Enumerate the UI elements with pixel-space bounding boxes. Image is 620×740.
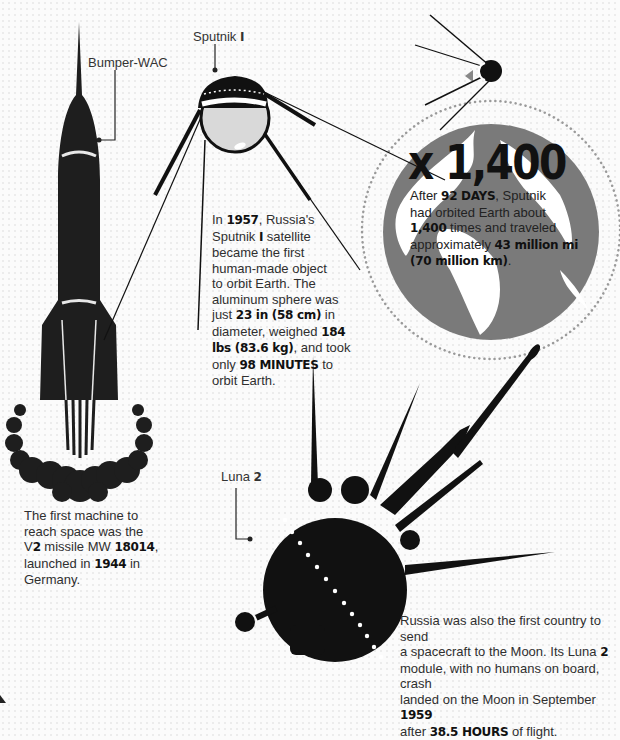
- luna-line-3: module, with no humans on board, crash: [400, 661, 620, 692]
- luna-line-1: Russia was also the first country to sen…: [400, 613, 620, 644]
- v2-line-2: reach space was the: [24, 524, 164, 540]
- luna-label-number: 2: [254, 470, 262, 484]
- luna-line-2: a spacecraft to the Moon. Its Luna 2: [400, 644, 620, 661]
- sputnik-line-4: human-made object: [212, 261, 362, 277]
- v2-line-4: launched in 1944 in: [24, 556, 164, 573]
- sputnik-line-5: to orbit Earth. The: [212, 276, 362, 292]
- sputnik-line-3: became the first: [212, 245, 362, 261]
- sputnik-line-1: In 1957, Russia's: [212, 212, 362, 229]
- luna-line-4: landed on the Moon in September 1959: [400, 692, 620, 724]
- v2-line-3: V2 missile MW 18014,: [24, 539, 164, 556]
- luna-2-label: Luna 2: [221, 469, 262, 484]
- orbit-line-1: After 92 DAYS, Sputnik: [410, 188, 610, 205]
- sputnik-line-8: diameter, weighed 184: [212, 324, 362, 341]
- bumper-wac-text: Bumper-WAC: [88, 55, 168, 70]
- sputnik-line-10: only 98 MINUTES to: [212, 357, 362, 374]
- luna-leader-line: [236, 488, 249, 539]
- sputnik-orbit-icon: [415, 15, 502, 130]
- sputnik-label-number: I: [240, 30, 244, 44]
- luna-label-text: Luna: [221, 469, 254, 484]
- bumper-wac-rocket-icon: [5, 22, 153, 502]
- luna-line-5: after 38.5 HOURS of flight.: [400, 724, 620, 740]
- v2-line-1: The first machine to: [24, 508, 164, 524]
- orbit-stat-paragraph: After 92 DAYS, Sputnik had orbited Earth…: [410, 188, 610, 270]
- orbit-line-2: had orbited Earth about: [410, 205, 610, 221]
- sputnik-line-11: orbit Earth.: [212, 373, 362, 389]
- bumper-wac-label: Bumper-WAC: [88, 55, 168, 70]
- sputnik-line-2: Sputnik I satellite: [212, 229, 362, 246]
- v2-paragraph: The first machine to reach space was the…: [24, 508, 164, 588]
- sputnik-line-7: just 23 in (58 cm) in: [212, 307, 362, 324]
- sputnik-line-6: aluminum sphere was: [212, 292, 362, 308]
- sputnik-paragraph: In 1957, Russia's Sputnik I satellite be…: [212, 212, 362, 389]
- bumper-leader-line: [100, 70, 115, 140]
- v2-line-5: Germany.: [24, 572, 164, 588]
- sputnik-label-text: Sputnik: [193, 29, 240, 44]
- luna-paragraph: Russia was also the first country to sen…: [400, 613, 620, 740]
- orbit-count-headline: x 1,400: [408, 138, 566, 186]
- sputnik-label: Sputnik I: [193, 29, 244, 44]
- orbit-line-3: 1,400 times and traveled: [410, 220, 610, 237]
- orbit-line-4: approximately 43 million mi: [410, 237, 610, 254]
- orbit-line-5: (70 million km).: [410, 253, 610, 270]
- sputnik-line-9: lbs (83.6 kg), and took: [212, 340, 362, 357]
